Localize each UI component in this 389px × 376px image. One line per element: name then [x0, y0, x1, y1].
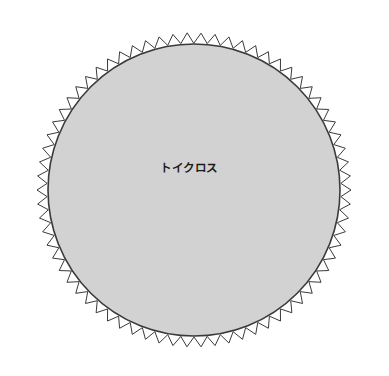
diagram-canvas: トイクロス: [0, 0, 389, 376]
fabric-disc: [48, 44, 340, 336]
fabric-circle-figure: トイクロス: [0, 0, 389, 376]
fabric-disc-group: [48, 44, 340, 336]
fabric-name-label: トイクロス: [160, 161, 218, 175]
